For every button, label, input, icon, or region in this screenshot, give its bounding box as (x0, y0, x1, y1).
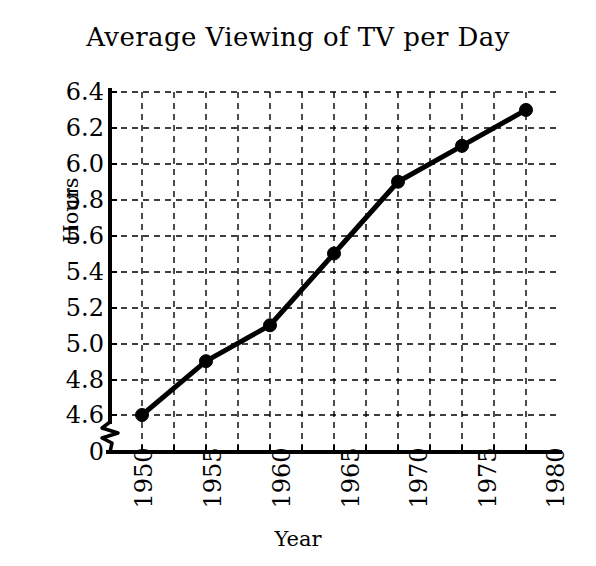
data-point-marker (136, 409, 149, 422)
data-point-marker (264, 319, 277, 332)
data-point-marker (328, 247, 341, 260)
data-point-marker (456, 139, 469, 152)
axis-lines (102, 90, 560, 452)
chart-container: Average Viewing of TV per Day Hours Year… (0, 0, 596, 566)
data-point-marker (392, 175, 405, 188)
plot-area (0, 0, 596, 566)
y-axis-break-zigzag (102, 422, 118, 452)
data-point-marker (520, 103, 533, 116)
data-point-marker (200, 355, 213, 368)
